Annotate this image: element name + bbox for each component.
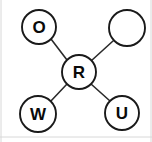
node-bottom-right-label: U bbox=[116, 104, 128, 123]
node-link-diagram: O R W U bbox=[0, 0, 152, 142]
edge-center-to-top-left bbox=[51, 39, 67, 60]
node-center[interactable]: R bbox=[62, 55, 96, 89]
node-group: O R W U bbox=[20, 10, 145, 132]
node-top-left-label: O bbox=[32, 18, 45, 37]
node-top-right-circle[interactable] bbox=[109, 10, 145, 46]
edge-center-to-top-right bbox=[91, 41, 113, 61]
node-bottom-left[interactable]: W bbox=[20, 96, 56, 132]
edge-center-to-bottom-left bbox=[50, 84, 67, 102]
node-top-left[interactable]: O bbox=[22, 10, 56, 44]
node-bottom-right[interactable]: U bbox=[105, 96, 139, 130]
node-bottom-left-label: W bbox=[30, 105, 47, 124]
node-top-right[interactable] bbox=[109, 10, 145, 46]
node-center-label: R bbox=[73, 63, 85, 82]
diagram-canvas: O R W U bbox=[0, 0, 152, 142]
edge-center-to-bottom-right bbox=[91, 84, 110, 101]
